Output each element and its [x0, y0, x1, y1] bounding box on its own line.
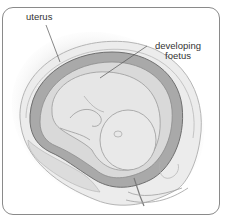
foetus-head	[100, 110, 156, 170]
label-foetus-line2: foetus	[146, 51, 210, 61]
label-developing-foetus: developing foetus	[146, 41, 210, 61]
label-uterus: uterus	[26, 12, 52, 22]
uterus-foetus-illustration	[0, 0, 228, 221]
